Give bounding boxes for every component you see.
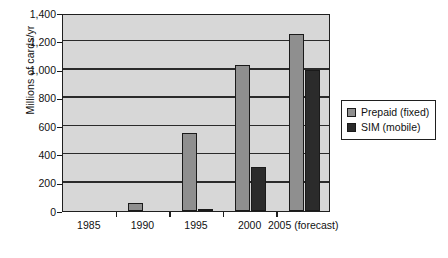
legend-swatch-prepaid-icon	[347, 108, 356, 117]
y-axis-tick-label: 1,400	[22, 9, 56, 20]
x-axis-tick-labels: 19851990199520002005 (forecast)	[62, 219, 352, 239]
legend-item-sim: SIM (mobile)	[347, 120, 429, 135]
y-axis-tick-label: 0	[22, 207, 56, 218]
chart-legend: Prepaid (fixed)SIM (mobile)	[341, 100, 436, 140]
bar-2000-sim	[251, 167, 266, 211]
bar-1995-sim	[198, 209, 213, 211]
x-axis-tick-mark	[223, 212, 225, 217]
bar-2005-forecast--sim	[305, 70, 320, 211]
legend-item-prepaid: Prepaid (fixed)	[347, 105, 429, 120]
y-axis-tick-label: 1,000	[22, 65, 56, 76]
bar-chart: Millions of cards/yr 02004006008001,0001…	[0, 0, 448, 258]
bar-1995-prepaid	[182, 133, 197, 211]
y-axis-tick-label: 1,200	[22, 37, 56, 48]
x-axis-tick-mark	[116, 212, 118, 217]
x-axis-tick-label: 1990	[131, 219, 154, 231]
bar-2005-forecast--prepaid	[289, 34, 304, 211]
y-axis-tick-label: 800	[22, 93, 56, 104]
bar-1990-prepaid	[128, 203, 143, 211]
x-axis-tick-mark	[276, 212, 278, 217]
legend-swatch-sim-icon	[347, 123, 356, 132]
plot-area	[62, 14, 330, 212]
y-axis-tick-label: 600	[22, 122, 56, 133]
x-axis-tick-label: 2005 (forecast)	[268, 219, 339, 231]
legend-label: SIM (mobile)	[361, 122, 421, 133]
x-axis-tick-marks	[62, 212, 330, 218]
bar-2000-prepaid	[235, 65, 250, 211]
x-axis-tick-label: 2000	[238, 219, 261, 231]
y-axis-tick-label: 200	[22, 178, 56, 189]
x-axis-tick-label: 1995	[184, 219, 207, 231]
x-axis-tick-label: 1985	[77, 219, 100, 231]
plot-inner	[63, 15, 329, 211]
x-axis-tick-mark	[169, 212, 171, 217]
y-axis-tick-labels: 02004006008001,0001,2001,400	[16, 0, 56, 258]
y-axis-tick-label: 400	[22, 150, 56, 161]
legend-label: Prepaid (fixed)	[361, 107, 429, 118]
